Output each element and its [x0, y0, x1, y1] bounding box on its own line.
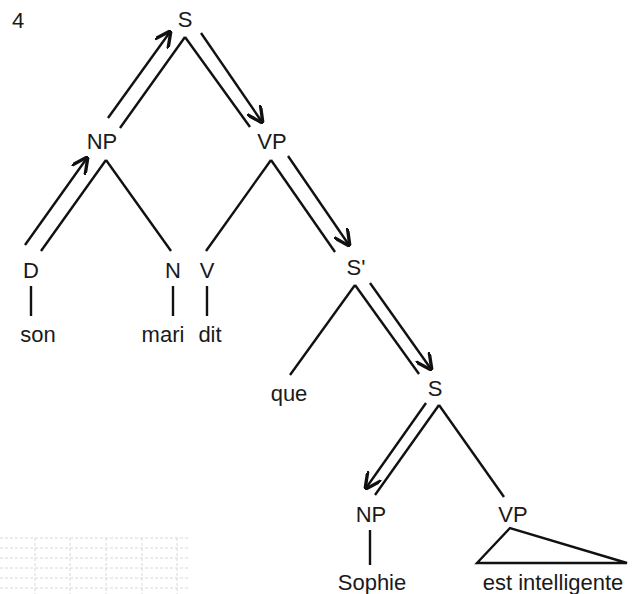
arrow-sbar-to-s	[370, 283, 431, 369]
node-s-embedded: S	[428, 376, 443, 401]
node-s-bar: S'	[347, 255, 366, 280]
leaf-words: son mari dit que Sophie est intelligente	[20, 322, 623, 594]
arrow-np-to-s	[108, 32, 170, 118]
node-vp-embedded: VP	[498, 502, 527, 527]
node-n: N	[165, 258, 181, 283]
leaf-est-intelligente: est intelligente	[483, 570, 624, 594]
tree-edges	[31, 37, 627, 565]
arrow-s-to-np	[366, 403, 426, 488]
arrow-s-to-vp	[201, 33, 262, 122]
node-vp: VP	[257, 129, 286, 154]
arrow-vp-to-sbar	[288, 156, 349, 245]
node-d: D	[23, 258, 39, 283]
node-v: V	[200, 258, 215, 283]
leaf-mari: mari	[142, 322, 185, 347]
leaf-dit: dit	[198, 322, 221, 347]
node-np: NP	[87, 129, 118, 154]
figure-number: 4	[12, 8, 24, 33]
leaf-que: que	[271, 381, 308, 406]
node-labels: S NP VP D N V S' S NP VP	[23, 7, 528, 527]
leaf-son: son	[20, 322, 55, 347]
syntax-tree-diagram: 4 S NP VP D N V S' S NP VP	[0, 0, 633, 594]
node-np-embedded: NP	[356, 502, 387, 527]
path-arrows	[25, 32, 431, 488]
leaf-sophie: Sophie	[338, 570, 407, 594]
node-s-root: S	[178, 7, 193, 32]
background-grid	[0, 538, 190, 594]
